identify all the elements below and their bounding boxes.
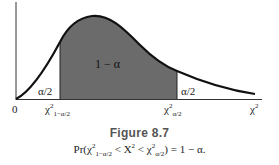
origin-label: 0 bbox=[12, 104, 18, 115]
x-axis-label: χ2 bbox=[250, 104, 258, 115]
chi-square-diagram bbox=[0, 0, 279, 165]
left-tail-label: α/2 bbox=[38, 86, 52, 97]
upper-critical-label: χ2α/2 bbox=[164, 104, 182, 115]
figure-title: Figure 8.7 bbox=[0, 126, 279, 140]
lower-critical-label: χ21−α/2 bbox=[45, 104, 70, 115]
figure-caption: Pr(χ21−α/2 < X2 < χ2α/2) = 1 − α. bbox=[0, 143, 279, 155]
center-region-label: 1 − α bbox=[95, 58, 120, 70]
right-tail-label: α/2 bbox=[181, 86, 195, 97]
